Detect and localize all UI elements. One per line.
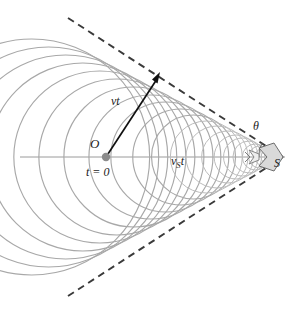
mach-cone-figure: O t = 0 vt vSt θ S [0,0,298,311]
mach-cone-canvas [0,0,298,311]
source-distance-label: vSt [171,155,184,170]
source-distance-t: t [181,154,184,168]
mach-angle-label: θ [253,120,259,132]
source-label: S [274,157,280,169]
sound-distance-label: vt [111,95,120,107]
time-zero-label: t = 0 [86,166,109,178]
origin-dot-icon [102,153,110,161]
upper-cone-edge [68,18,283,157]
origin-label: O [90,137,99,150]
vt-arrow [106,72,160,157]
